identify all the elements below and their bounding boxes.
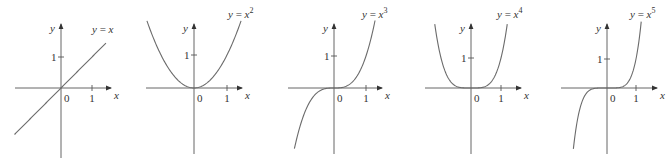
y-axis-label: y [459,22,465,34]
origin-label: 0 [64,92,70,104]
x-tick-label-1: 1 [89,92,95,104]
panel-y-equals-x-fifth: x y 0 1 1 y = x5 [561,6,665,154]
origin-label: 0 [197,92,203,104]
x-tick-label-1: 1 [363,92,369,104]
equation-label: y = x4 [496,6,523,20]
y-axis [58,24,64,158]
origin-label: 0 [337,92,343,104]
origin-label: 0 [610,92,616,104]
panel-y-equals-x-cubed: x y 0 1 1 y = x3 [288,6,390,154]
y-axis-label: y [49,22,55,34]
equation-label: y = x2 [227,6,254,20]
equation-label: y = x3 [361,6,388,20]
panel-y-equals-x: x y 0 1 1 y = x [15,22,120,158]
x-axis-label: x [523,89,529,101]
y-tick-label-1: 1 [461,52,467,64]
y-axis-label: y [182,22,188,34]
panel-y-equals-x-fourth: x y 0 1 1 y = x4 [425,6,529,154]
y-tick-label-1: 1 [597,53,603,65]
y-tick-label-1: 1 [324,50,330,62]
y-axis-label: y [595,22,601,34]
curve-y-equals-x-cubed [294,21,375,149]
y-tick-label-1: 1 [184,49,190,61]
x-axis-label: x [659,89,665,101]
x-axis-label: x [384,89,390,101]
y-axis [604,24,610,154]
power-functions-figure: x y 0 1 1 y = x x y 0 1 1 y = x2 x y 0 1… [0,0,671,164]
y-axis [468,24,474,154]
x-axis-label: x [244,89,250,101]
y-axis [331,24,337,154]
y-tick-label-1: 1 [51,51,57,63]
x-tick-label-1: 1 [633,92,639,104]
panel-y-equals-x-squared: x y 0 1 1 y = x2 [146,6,254,154]
equation-label: y = x5 [629,6,656,20]
y-axis [191,24,197,154]
origin-label: 0 [474,92,480,104]
equation-label: y = x [91,23,114,35]
x-tick-label-1: 1 [224,92,230,104]
y-axis-label: y [322,22,328,34]
x-axis-label: x [113,89,119,101]
x-tick-label-1: 1 [498,92,504,104]
